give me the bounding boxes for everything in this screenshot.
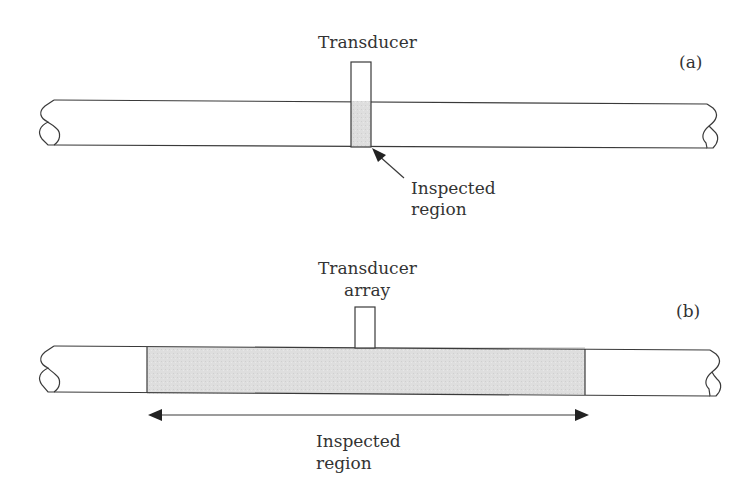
panel-tag-a: (a) <box>679 52 702 72</box>
region-label-a-line2: region <box>411 199 467 219</box>
transducer-label-b-line1: Transducer <box>318 258 418 278</box>
pointer-arrow-a <box>372 148 404 178</box>
region-label-b-line2: region <box>316 453 372 473</box>
transducer-label-b-line2: array <box>344 280 391 300</box>
inspected-region-b <box>147 347 585 394</box>
region-label-a-line1: Inspected <box>411 178 496 198</box>
transducer-array-b <box>355 307 375 348</box>
panel-b: Transducer array (b) Inspected region <box>40 258 721 473</box>
region-label-b-line1: Inspected <box>316 431 401 451</box>
pipe-a <box>40 100 718 148</box>
inspected-region-a <box>351 101 371 147</box>
diagram-canvas: Transducer (a) Inspected region Transduc… <box>0 0 754 494</box>
span-arrow-b <box>148 409 589 421</box>
panel-tag-b: (b) <box>676 301 700 321</box>
panel-a: Transducer (a) Inspected region <box>40 32 718 219</box>
transducer-label-a: Transducer <box>318 32 418 52</box>
